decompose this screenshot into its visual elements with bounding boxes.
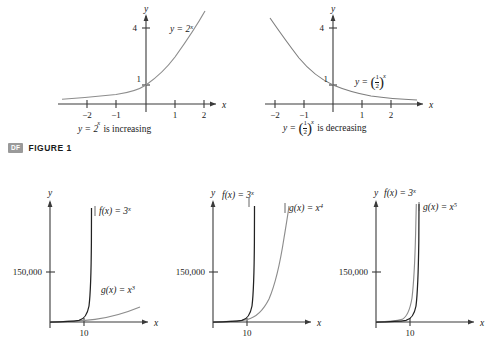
curve-label-prefix: y = [355, 77, 370, 87]
x-axis-name: x [153, 318, 159, 328]
label-g-bottom-left: g(x) = x3 [101, 284, 136, 297]
chart-top-right: −2 −1 1 2 4 1 y x [245, 0, 489, 140]
x-tick-label-10: 10 [80, 328, 90, 338]
x-axis-arrow [305, 320, 311, 325]
curve-f-3-pow-x [50, 208, 92, 322]
caption-right-exp: x [311, 118, 314, 125]
label-g-bottom-right: g(x) = x5 [423, 201, 458, 214]
label-f-bottom-middle: f(x) = 3x [222, 189, 254, 202]
curve-g-x-cubed [50, 307, 140, 322]
curve-g-x-fifth [376, 204, 416, 322]
curve-label-top-left: y = 2x [169, 23, 193, 35]
caption-left-prefix: y = 2 [78, 124, 98, 134]
y-axis-arrow [48, 200, 53, 207]
panel-bottom-right: 150,000 10 y x f(x) = 3x g(x) = x5 [326, 180, 489, 342]
panel-top-right: −2 −1 1 2 4 1 y x y = (12)x y = (12)x is… [245, 0, 489, 140]
y-axis-name: y [330, 4, 336, 14]
x-axis-name: x [428, 100, 434, 110]
y-tick-label-150000: 150,000 [13, 267, 43, 277]
curve-f-3-pow-x [376, 204, 419, 322]
figure-caption: DF FIGURE 1 [8, 143, 72, 153]
y-tick-label-4: 4 [320, 23, 325, 33]
caption-left-exp: x [97, 119, 100, 126]
y-axis-arrow [144, 14, 149, 21]
figure-title: FIGURE 1 [28, 143, 71, 153]
x-axis-name: x [316, 318, 322, 328]
chart-bottom-right: 150,000 10 y x f(x) = 3x g(x) = x5 [326, 180, 489, 342]
chart-bottom-left: 150,000 10 y x f(x) = 3x g(x) = x3 [0, 180, 163, 342]
curve-g-x-fourth [213, 206, 289, 322]
caption-left-suffix: is increasing [101, 124, 151, 134]
y-tick-label-150000: 150,000 [176, 267, 206, 277]
x-tick-label-neg1: −1 [111, 110, 121, 120]
media-badge-icon: DF [8, 143, 23, 153]
curve-y-half-pow-x [270, 18, 417, 100]
y-tick-label-1: 1 [324, 74, 329, 84]
caption-top-right: y = (12)x is decreasing [283, 120, 366, 137]
x-tick-label-1: 1 [360, 110, 365, 120]
x-axis-arrow [142, 320, 148, 325]
panel-top-left: −2 −1 1 2 4 1 y x y = 2x y = 2x is incre… [0, 0, 245, 140]
chart-bottom-middle: 150,000 10 y x f(x) = 3x g(x) = x4 [163, 180, 326, 342]
x-tick-label-2: 2 [389, 110, 394, 120]
curve-f-3-pow-x [213, 206, 255, 322]
x-tick-label-neg2: −2 [270, 110, 280, 120]
x-tick-label-neg2: −2 [82, 110, 92, 120]
x-axis-arrow [210, 102, 216, 107]
label-f-bottom-left: f(x) = 3x [99, 205, 131, 218]
x-axis-name: x [479, 318, 485, 328]
chart-top-left: −2 −1 1 2 4 1 y x y = 2x [0, 0, 245, 140]
y-axis-arrow [374, 200, 379, 207]
y-axis-arrow [211, 200, 216, 207]
x-axis-name: x [221, 100, 227, 110]
label-f-bottom-right: f(x) = 3x [384, 187, 416, 200]
y-axis-name: y [47, 188, 53, 198]
x-tick-label-10: 10 [406, 328, 416, 338]
caption-right-prefix: y = [283, 123, 298, 133]
x-axis-arrow [468, 320, 474, 325]
y-tick-label-1: 1 [137, 74, 142, 84]
y-axis-name: y [210, 188, 216, 198]
x-tick-label-1: 1 [173, 110, 178, 120]
caption-top-left: y = 2x is increasing [78, 122, 151, 134]
x-axis-arrow [417, 102, 423, 107]
curve-label-exp: x [383, 72, 386, 79]
caption-right-suffix: is decreasing [315, 123, 367, 133]
y-tick-label-4: 4 [133, 23, 138, 33]
x-tick-label-2: 2 [202, 110, 207, 120]
label-g-bottom-middle: g(x) = x4 [289, 202, 324, 215]
panel-bottom-left: 150,000 10 y x f(x) = 3x g(x) = x3 [0, 180, 163, 342]
curve-label-top-right: y = (12)x [355, 74, 387, 91]
y-axis-name: y [143, 4, 149, 14]
y-tick-label-150000: 150,000 [339, 267, 369, 277]
y-axis-name: y [373, 188, 379, 198]
panel-bottom-middle: 150,000 10 y x f(x) = 3x g(x) = x4 [163, 180, 326, 342]
x-tick-label-10: 10 [243, 328, 253, 338]
y-axis-arrow [331, 14, 336, 21]
